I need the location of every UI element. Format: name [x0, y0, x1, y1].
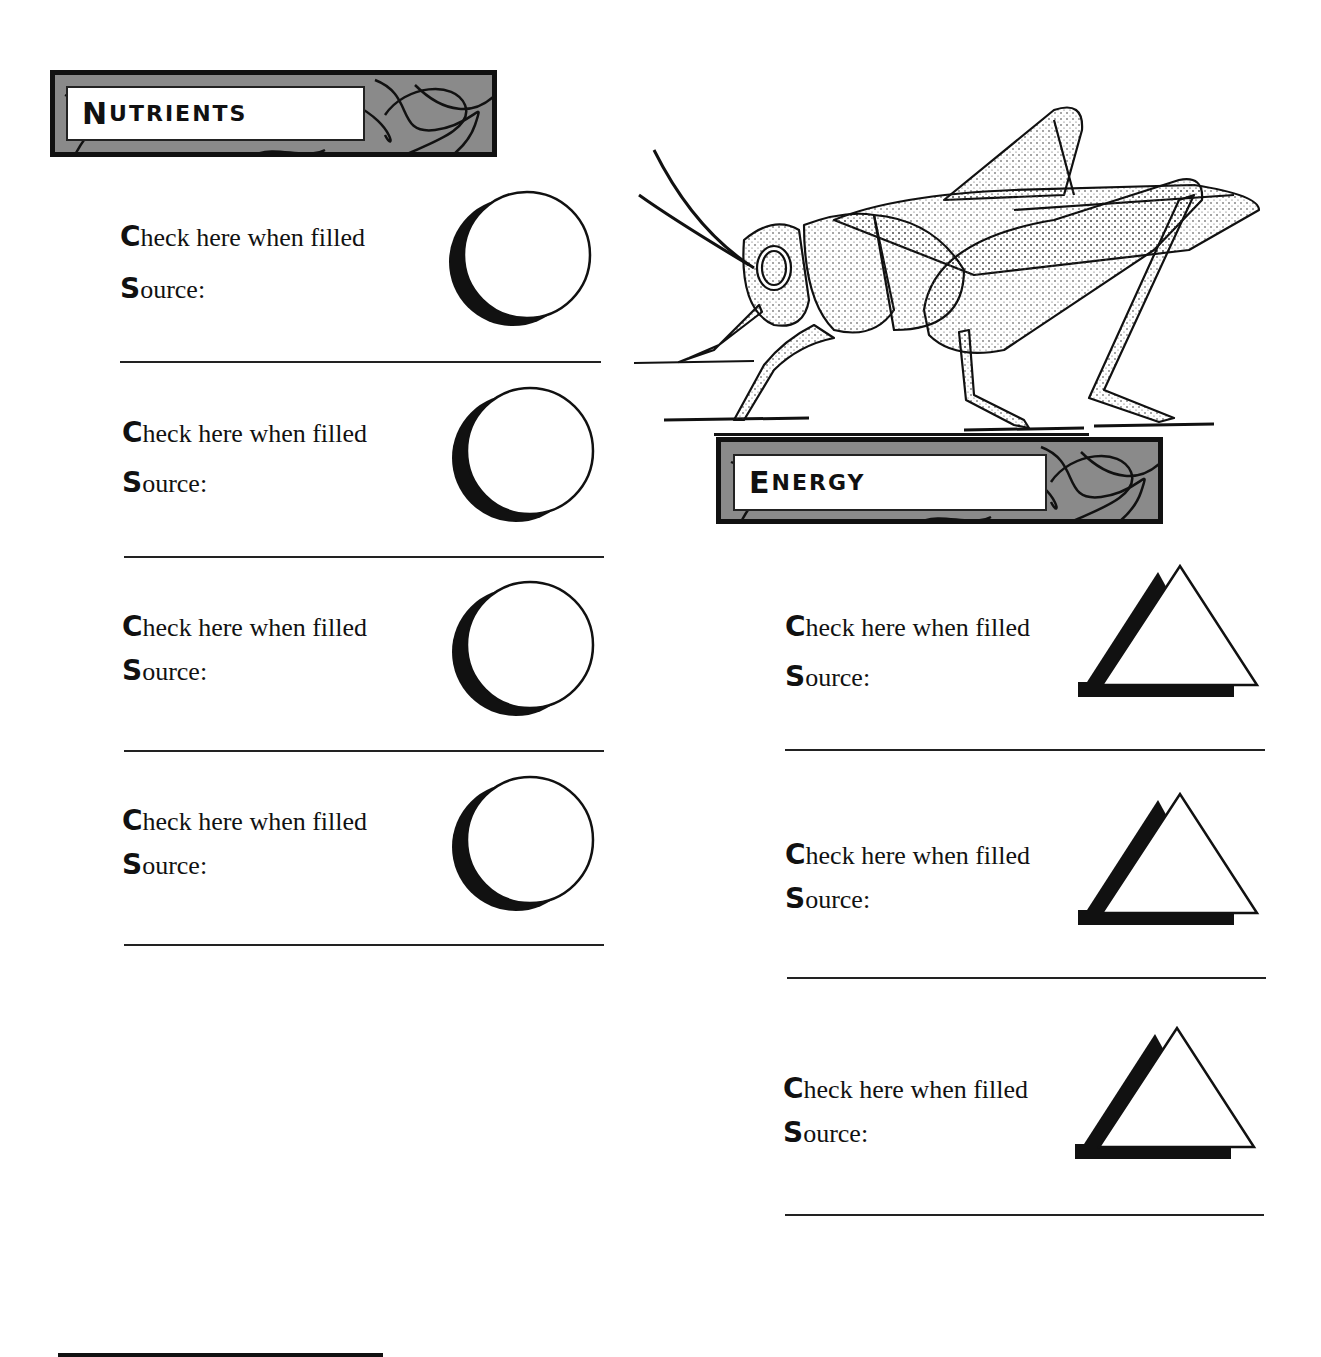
check-label: Check here when filled [122, 416, 367, 449]
source-label: Source: [122, 466, 207, 499]
source-input-line[interactable] [120, 361, 601, 363]
energy-title: Energy [733, 454, 1047, 511]
source-input-line[interactable] [124, 556, 604, 558]
source-label: Source: [122, 654, 207, 687]
nutrients-title: Nutrients [66, 86, 365, 141]
source-label: Source: [785, 882, 870, 915]
circle-checkbox-icon[interactable] [443, 188, 593, 328]
source-label: Source: [120, 272, 205, 305]
circle-checkbox-icon[interactable] [446, 773, 596, 913]
source-label: Source: [785, 660, 870, 693]
check-label: Check here when filled [122, 610, 367, 643]
circle-checkbox-icon[interactable] [446, 384, 596, 524]
grasshopper-illustration-icon [634, 100, 1270, 436]
source-input-line[interactable] [787, 977, 1266, 979]
source-input-line[interactable] [785, 749, 1265, 751]
check-label: Check here when filled [122, 804, 367, 837]
check-label: Check here when filled [783, 1072, 1028, 1105]
source-input-line[interactable] [124, 944, 604, 946]
energy-header: Energy [716, 437, 1163, 524]
triangle-checkbox-icon[interactable] [1076, 562, 1262, 702]
triangle-checkbox-icon[interactable] [1073, 1024, 1259, 1164]
circle-checkbox-icon[interactable] [446, 578, 596, 718]
source-input-line[interactable] [124, 750, 604, 752]
triangle-checkbox-icon[interactable] [1076, 790, 1262, 930]
nutrients-header: Nutrients [50, 70, 497, 157]
check-label: Check here when filled [785, 838, 1030, 871]
source-input-line[interactable] [785, 1214, 1264, 1216]
check-label: Check here when filled [120, 220, 365, 253]
check-label: Check here when filled [785, 610, 1030, 643]
source-label: Source: [783, 1116, 868, 1149]
footer-divider [58, 1353, 383, 1357]
source-label: Source: [122, 848, 207, 881]
